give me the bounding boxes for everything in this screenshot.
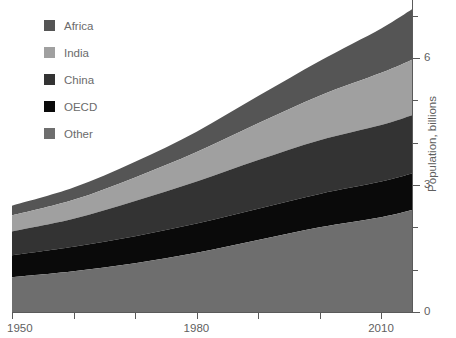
legend-label-other: Other: [64, 128, 93, 140]
legend-label-africa: Africa: [64, 20, 93, 32]
legend-swatch-india: [44, 47, 55, 58]
legend-label-india: India: [64, 47, 89, 59]
legend-swatch-china: [44, 74, 55, 85]
legend-item-other: Other: [44, 127, 174, 140]
legend-item-india: India: [44, 46, 174, 59]
legend-label-china: China: [64, 74, 94, 86]
legend-swatch-other: [44, 128, 55, 139]
chart-legend: Africa India China OECD Other: [44, 19, 174, 154]
legend-swatch-africa: [44, 20, 55, 31]
y-tick-label-6: 6: [424, 51, 430, 63]
legend-item-china: China: [44, 73, 174, 86]
x-tick-label-1950: 1950: [7, 322, 33, 334]
y-axis-title: Population, billions: [426, 96, 438, 192]
x-tick-label-1980: 1980: [184, 322, 210, 334]
y-tick-label-0: 0: [424, 305, 430, 317]
legend-label-oecd: OECD: [64, 101, 97, 113]
legend-item-oecd: OECD: [44, 100, 174, 113]
y-axis-ticks: [413, 17, 420, 313]
x-axis-ticks: [13, 313, 382, 319]
population-stacked-area-chart: Africa India China OECD Other 1950 1980 …: [0, 0, 456, 338]
legend-swatch-oecd: [44, 101, 55, 112]
x-tick-label-2010: 2010: [368, 322, 394, 334]
legend-item-africa: Africa: [44, 19, 174, 32]
